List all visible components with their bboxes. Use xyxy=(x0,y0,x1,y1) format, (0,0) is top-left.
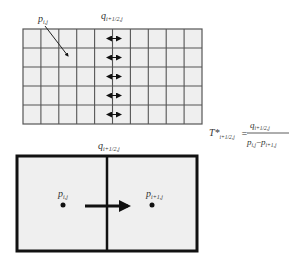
detail-label-q: qi+1/2,j xyxy=(98,140,120,152)
svg-text:qi+1/2,j: qi+1/2,j xyxy=(250,120,270,131)
grid-label-p: pi,j xyxy=(37,13,48,25)
two-cell-detail: qi+1/2,j pi,j pi+1,j xyxy=(17,140,197,251)
svg-text:pi,j−pi+1,j: pi,j−pi+1,j xyxy=(246,137,277,148)
left-cell-center-dot xyxy=(61,203,66,208)
diagram-canvas: pi,j qi+1/2,j T*i+1/2,j = qi+1/2,j pi,j−… xyxy=(0,0,293,258)
svg-text:T*i+1/2,j: T*i+1/2,j xyxy=(209,127,235,140)
right-cell-center-dot xyxy=(150,203,155,208)
transmissibility-formula: T*i+1/2,j = qi+1/2,j pi,j−pi+1,j xyxy=(209,120,289,148)
grid-label-q: qi+1/2,j xyxy=(101,10,123,22)
